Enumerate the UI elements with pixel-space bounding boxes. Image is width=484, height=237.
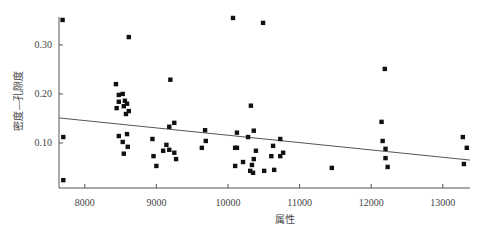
y-tick-label: 0.20 bbox=[35, 88, 53, 99]
data-point bbox=[278, 154, 282, 158]
data-point bbox=[241, 160, 245, 164]
x-tick-label: 13000 bbox=[430, 197, 455, 208]
data-points bbox=[60, 16, 469, 183]
data-point bbox=[117, 93, 121, 97]
data-point bbox=[167, 148, 171, 152]
data-point bbox=[233, 164, 237, 168]
data-point bbox=[252, 128, 256, 132]
data-point bbox=[200, 146, 204, 150]
data-point bbox=[174, 157, 178, 161]
data-point bbox=[121, 92, 125, 96]
data-point bbox=[250, 163, 254, 167]
data-point bbox=[121, 140, 125, 144]
data-point bbox=[385, 165, 389, 169]
data-point bbox=[126, 145, 130, 149]
data-point bbox=[150, 137, 154, 141]
data-point bbox=[383, 67, 387, 71]
data-point bbox=[117, 134, 121, 138]
scatter-chart: 0.100.200.30 800090001000011000120001300… bbox=[0, 0, 484, 237]
data-point bbox=[269, 154, 273, 158]
data-point bbox=[261, 21, 265, 25]
data-point bbox=[383, 147, 387, 151]
data-point bbox=[61, 178, 65, 182]
data-point bbox=[154, 164, 158, 168]
data-point bbox=[172, 151, 176, 155]
data-point bbox=[251, 171, 255, 175]
data-point bbox=[114, 106, 118, 110]
data-point bbox=[249, 103, 253, 107]
x-tick-label: 11000 bbox=[287, 197, 312, 208]
data-point bbox=[164, 143, 168, 147]
data-point bbox=[380, 139, 384, 143]
data-point bbox=[383, 156, 387, 160]
data-point bbox=[330, 166, 334, 170]
y-axis-label: 密度—孔隙度 bbox=[12, 71, 24, 131]
data-point bbox=[161, 149, 165, 153]
x-tick-label: 8000 bbox=[75, 197, 95, 208]
data-point bbox=[235, 130, 239, 134]
data-point bbox=[114, 82, 118, 86]
data-point bbox=[462, 162, 466, 166]
data-point bbox=[235, 146, 239, 150]
data-point bbox=[246, 135, 250, 139]
y-tick-label: 0.30 bbox=[35, 39, 53, 50]
data-point bbox=[465, 146, 469, 150]
data-point bbox=[231, 16, 235, 20]
data-point bbox=[461, 135, 465, 139]
data-point bbox=[271, 144, 275, 148]
data-point bbox=[168, 78, 172, 82]
data-point bbox=[203, 128, 207, 132]
data-point bbox=[262, 169, 266, 173]
y-tick-label: 0.10 bbox=[35, 137, 53, 148]
data-point bbox=[125, 132, 129, 136]
x-tick-label: 10000 bbox=[215, 197, 240, 208]
data-point bbox=[127, 35, 131, 39]
data-point bbox=[254, 149, 258, 153]
data-point bbox=[272, 168, 276, 172]
data-point bbox=[60, 18, 64, 22]
data-point bbox=[204, 139, 208, 143]
data-point bbox=[252, 157, 256, 161]
data-point bbox=[117, 100, 121, 104]
data-point bbox=[61, 135, 65, 139]
data-point bbox=[172, 121, 176, 125]
data-point bbox=[167, 125, 171, 129]
data-point bbox=[278, 137, 282, 141]
x-tick-label: 9000 bbox=[146, 197, 166, 208]
data-point bbox=[379, 120, 383, 124]
data-point bbox=[122, 152, 126, 156]
x-tick-label: 12000 bbox=[359, 197, 384, 208]
data-point bbox=[151, 154, 155, 158]
data-point bbox=[122, 104, 126, 108]
x-axis-label: 属性 bbox=[275, 213, 295, 225]
trend-line bbox=[59, 118, 470, 160]
data-point bbox=[124, 112, 128, 116]
